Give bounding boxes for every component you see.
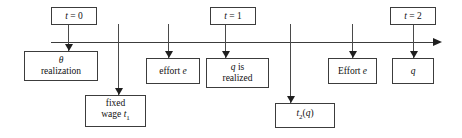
time-label-t2: t = 2 — [390, 7, 436, 25]
arrowhead-icon-effort-lowercase — [165, 51, 173, 58]
arrowhead-icon-effort-uppercase — [349, 51, 357, 58]
event-box-theta-realization: θrealization — [24, 51, 98, 81]
event-box-transfer-t2-of-q: t2(q) — [275, 103, 335, 128]
event-box-theta-realization-text: θrealization — [39, 55, 83, 77]
time-axis-line — [51, 42, 436, 43]
time-label-t1: t = 1 — [210, 7, 256, 25]
event-box-output-q: q — [392, 58, 434, 84]
event-box-q-is-realized: q isrealized — [206, 58, 269, 88]
arrowhead-icon-transfer-t2-of-q — [287, 96, 295, 103]
event-box-effort-uppercase-text: Effort e — [336, 66, 369, 77]
arrowhead-icon-theta-realization — [65, 44, 73, 51]
event-box-fixed-wage: fixedwage t1 — [85, 95, 146, 127]
time-label-t0: t = 0 — [51, 7, 97, 25]
connector-fixed-wage — [118, 24, 119, 95]
arrowhead-icon-q-is-realized — [222, 51, 230, 58]
event-box-output-q-text: q — [409, 66, 418, 77]
time-label-t2-text: t = 2 — [402, 11, 424, 22]
time-label-t1-text: t = 1 — [222, 11, 244, 22]
event-box-effort-lowercase-text: effort e — [157, 66, 189, 77]
time-label-t0-text: t = 0 — [63, 11, 85, 22]
event-box-q-is-realized-text: q isrealized — [220, 62, 254, 84]
time-axis-arrowhead-icon — [433, 38, 442, 46]
event-box-effort-uppercase: Effort e — [328, 58, 377, 84]
arrowhead-icon-fixed-wage — [115, 88, 123, 95]
event-box-transfer-t2-of-q-text: t2(q) — [294, 108, 315, 123]
connector-transfer-t2-of-q — [290, 24, 291, 103]
arrowhead-icon-output-q — [410, 51, 418, 58]
event-box-effort-lowercase: effort e — [146, 58, 200, 84]
timeline-diagram: t = 0 t = 1 t = 2 θrealization fixedwage… — [0, 0, 462, 138]
event-box-fixed-wage-text: fixedwage t1 — [99, 98, 132, 124]
